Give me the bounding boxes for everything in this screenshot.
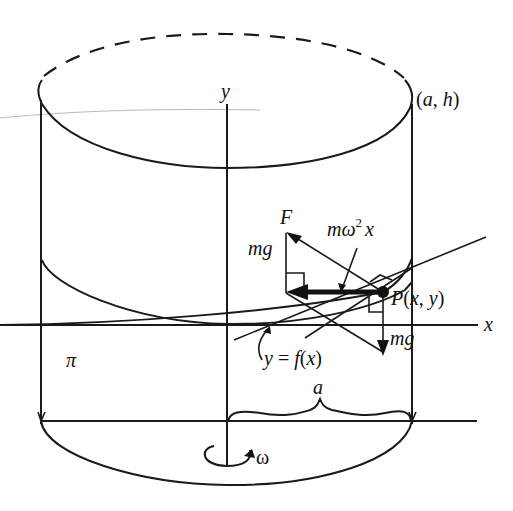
centripetal-arrowhead <box>286 284 308 300</box>
force-F-label: F <box>279 206 293 228</box>
omega-label: ω <box>256 446 269 468</box>
centripetal-label: mω2x <box>327 215 374 240</box>
top-corner-label: (a, h) <box>416 88 459 111</box>
x-axis-label: x <box>483 313 493 335</box>
mg-left-label: mg <box>248 237 272 260</box>
pi-label: π <box>66 349 77 371</box>
rotating-cylinder-diagram: y (a, h) F mg mω2x P(x, y) x mg y = f(x)… <box>0 0 513 511</box>
force-F-arrowhead <box>286 232 302 244</box>
scan-artifact-line <box>0 109 260 118</box>
radius-label: a <box>313 376 323 398</box>
mg-right-label: mg <box>390 327 414 350</box>
point-P <box>377 286 389 298</box>
y-axis-label: y <box>219 80 230 103</box>
point-P-label: P(x, y) <box>390 287 444 310</box>
cylinder-top-back-rim <box>44 34 404 78</box>
curve-label: y = f(x) <box>262 347 322 370</box>
radius-brace <box>228 399 411 421</box>
